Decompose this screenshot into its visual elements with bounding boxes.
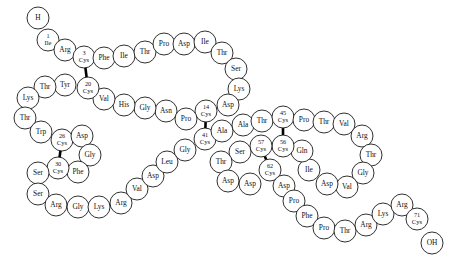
residue-name-56: Cys xyxy=(278,145,289,152)
residue-name-70: Arg xyxy=(396,200,408,209)
residue-name-47: Thr xyxy=(319,117,330,126)
residue-number-45: 45 xyxy=(280,109,286,116)
residue-name-57: Cys xyxy=(256,145,267,152)
residue-name-8: Asp xyxy=(178,39,190,48)
protein-sequence-diagram: H1IleArg3CysPheIleThrProAspIleThrSerLysA… xyxy=(0,0,450,257)
residue-name-11: Ser xyxy=(231,64,241,73)
residue-name-61: Asp xyxy=(244,179,256,188)
residue-name-35: Lys xyxy=(94,202,105,211)
residue-name-15: Asn xyxy=(160,106,172,115)
residue-name-58: Ser xyxy=(235,147,245,156)
residue-name-16: Gly xyxy=(139,103,150,112)
residue-name-51: Gly xyxy=(357,168,368,177)
residue-name-60: Asp xyxy=(222,176,234,185)
residue-name-37: Val xyxy=(132,184,142,193)
residue-name-40: Gly xyxy=(179,145,190,154)
residue-name-24: Thr xyxy=(20,113,31,122)
residue-name-25: Trp xyxy=(36,127,47,136)
residue-name-27: Asp xyxy=(76,131,88,140)
residue-number-26: 26 xyxy=(59,132,65,139)
residue-name-64: Pro xyxy=(289,196,300,205)
residue-name-44: Thr xyxy=(257,116,268,125)
residue-name-42: Ala xyxy=(217,126,228,135)
residue-name-38: Asp xyxy=(147,171,159,180)
residue-name-10: Thr xyxy=(217,48,228,57)
residue-name-69: Lys xyxy=(378,209,389,218)
residue-name-62: Cys xyxy=(265,169,276,176)
residue-name-68: Arg xyxy=(360,220,372,229)
residue-name-26: Cys xyxy=(57,139,68,146)
residue-number-57: 57 xyxy=(258,138,264,145)
residue-name-20: Cys xyxy=(83,87,94,94)
residue-name-33: Arg xyxy=(50,200,62,209)
residue-name-3: Cys xyxy=(79,56,90,63)
residue-name-2: Arg xyxy=(59,45,71,54)
residue-number-20: 20 xyxy=(85,80,91,87)
residue-name-31: Ser xyxy=(33,168,43,177)
residue-number-30: 30 xyxy=(55,160,61,167)
residue-number-14: 14 xyxy=(203,103,209,110)
residue-name-55: Gln xyxy=(296,146,307,155)
residue-name-53: Asp xyxy=(321,179,333,188)
residue-name-36: Arg xyxy=(115,198,127,207)
residue-name-6: Thr xyxy=(140,47,151,56)
residue-name-63: Asp xyxy=(278,181,290,190)
residue-name-28: Gly xyxy=(84,150,95,159)
residue-number-56: 56 xyxy=(280,138,286,145)
residue-name-7: Pro xyxy=(159,39,170,48)
residue-name-54: Ile xyxy=(305,165,314,174)
residue-name-4: Phe xyxy=(98,53,110,62)
residue-name-43: Ala xyxy=(238,120,249,129)
residue-name-32: Ser xyxy=(33,189,43,198)
residue-name-39: Leu xyxy=(161,157,173,166)
residue-name-12: Lys xyxy=(234,84,245,93)
residue-name-29: Phe xyxy=(72,167,84,176)
residue-name-49: Arg xyxy=(356,131,368,140)
residue-name-52: Val xyxy=(342,182,352,191)
residue-number-3: 3 xyxy=(82,49,85,56)
residue-name-23: Lys xyxy=(23,93,34,102)
residue-name-65: Phe xyxy=(301,211,313,220)
residue-name-59: Thr xyxy=(216,157,227,166)
residue-name-34: Gly xyxy=(72,202,83,211)
residue-name-67: Thr xyxy=(340,226,351,235)
residue-name-1: Ile xyxy=(45,39,52,46)
residue-name-21: Tyr xyxy=(60,80,71,89)
n-terminus-label: H xyxy=(35,13,41,22)
residue-number-41: 41 xyxy=(202,131,208,138)
residue-name-30: Cys xyxy=(53,167,64,174)
residue-name-46: Pro xyxy=(299,115,310,124)
residue-name-45: Cys xyxy=(278,116,289,123)
residue-name-13: Asp xyxy=(222,100,234,109)
residue-number-62: 62 xyxy=(267,162,273,169)
residue-name-14: Cys xyxy=(201,110,212,117)
residue-name-9: Ile xyxy=(201,37,210,46)
c-terminus-label: OH xyxy=(427,238,438,247)
residue-name-19: Pro xyxy=(181,114,192,123)
residue-name-5: Ile xyxy=(120,51,129,60)
residue-number-71: 71 xyxy=(414,211,420,218)
residue-name-50: Thr xyxy=(366,150,377,159)
residue-name-22: Thr xyxy=(40,82,51,91)
residue-name-66: Pro xyxy=(319,223,330,232)
residue-name-18: Val xyxy=(99,94,109,103)
residue-chain-canvas: H1IleArg3CysPheIleThrProAspIleThrSerLysA… xyxy=(0,0,450,257)
residue-number-1: 1 xyxy=(46,32,49,39)
residue-name-41: Cys xyxy=(200,138,211,145)
residue-name-48: Val xyxy=(339,119,349,128)
residue-name-17: His xyxy=(119,100,129,109)
residue-name-71: Cys xyxy=(412,218,423,225)
